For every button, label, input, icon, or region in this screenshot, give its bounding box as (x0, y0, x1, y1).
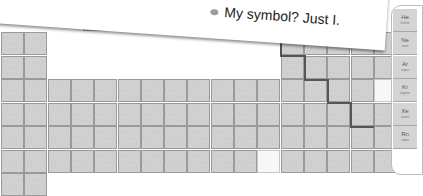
element-tile[interactable] (118, 126, 141, 149)
element-tile[interactable] (141, 79, 164, 102)
element-tile[interactable] (24, 32, 47, 55)
element-tile[interactable] (187, 126, 210, 149)
element-tile[interactable] (164, 150, 187, 173)
element-tile[interactable] (164, 103, 187, 126)
noble-gas-tile-neon[interactable]: Neneon (393, 32, 417, 55)
element-tile[interactable] (234, 126, 257, 149)
staircase-divider (350, 102, 352, 126)
element-symbol: Rn (393, 131, 417, 138)
element-name: helium (393, 21, 417, 25)
element-tile[interactable] (281, 126, 304, 149)
element-tile[interactable] (1, 79, 24, 102)
element-tile[interactable] (187, 79, 210, 102)
element-tile[interactable] (234, 79, 257, 102)
element-tile[interactable] (24, 173, 47, 196)
element-tile[interactable] (118, 103, 141, 126)
element-tile[interactable] (327, 103, 350, 126)
noble-gas-tile-helium[interactable]: Hehelium (393, 9, 417, 32)
element-tile[interactable] (257, 150, 280, 173)
element-tile[interactable] (327, 79, 350, 102)
element-name: xenon (393, 115, 417, 119)
element-tile[interactable] (24, 150, 47, 173)
element-tile[interactable] (234, 150, 257, 173)
element-tile[interactable] (164, 126, 187, 149)
element-tile[interactable] (257, 79, 280, 102)
element-tile[interactable] (164, 79, 187, 102)
element-tile[interactable] (257, 103, 280, 126)
element-tile[interactable] (94, 79, 117, 102)
element-symbol: Kr (393, 84, 417, 91)
element-tile[interactable] (94, 126, 117, 149)
element-tile[interactable] (304, 56, 327, 79)
element-tile[interactable] (24, 103, 47, 126)
element-tile[interactable] (304, 150, 327, 173)
element-tile[interactable] (94, 150, 117, 173)
element-name: krypton (393, 91, 417, 95)
element-tile[interactable] (1, 56, 24, 79)
noble-gas-tile-radon[interactable]: Rnradon (393, 126, 417, 149)
element-tile[interactable] (187, 103, 210, 126)
element-tile[interactable] (234, 103, 257, 126)
element-tile[interactable] (187, 150, 210, 173)
staircase-divider (350, 126, 374, 128)
bullet-icon (210, 9, 218, 16)
element-tile[interactable] (211, 79, 234, 102)
element-tile[interactable] (24, 79, 47, 102)
element-tile[interactable] (24, 126, 47, 149)
element-tile[interactable] (71, 150, 94, 173)
element-tile[interactable] (211, 103, 234, 126)
element-tile[interactable] (281, 56, 304, 79)
element-symbol: He (393, 14, 417, 21)
element-tile[interactable] (304, 103, 327, 126)
staircase-divider (327, 79, 329, 103)
element-tile[interactable] (257, 126, 280, 149)
element-tile[interactable] (48, 126, 71, 149)
element-tile[interactable] (351, 103, 374, 126)
element-symbol: Ne (393, 37, 417, 44)
element-tile[interactable] (1, 32, 24, 55)
element-tile[interactable] (24, 56, 47, 79)
staircase-divider (304, 79, 328, 81)
element-tile[interactable] (211, 126, 234, 149)
element-tile[interactable] (48, 103, 71, 126)
noble-gas-tile-argon[interactable]: Arargon (393, 56, 417, 79)
staircase-divider (280, 55, 304, 57)
element-symbol: Xe (393, 108, 417, 115)
element-tile[interactable] (327, 56, 350, 79)
element-tile[interactable] (118, 150, 141, 173)
element-tile[interactable] (327, 150, 350, 173)
element-tile[interactable] (71, 103, 94, 126)
element-tile[interactable] (48, 150, 71, 173)
element-tile[interactable] (141, 103, 164, 126)
staircase-divider (304, 55, 306, 79)
element-name: argon (393, 68, 417, 72)
element-tile[interactable] (141, 126, 164, 149)
element-tile[interactable] (118, 79, 141, 102)
element-tile[interactable] (304, 126, 327, 149)
element-tile[interactable] (71, 126, 94, 149)
noble-gas-tile-krypton[interactable]: Krkrypton (393, 79, 417, 102)
element-symbol: Ar (393, 61, 417, 68)
element-tile[interactable] (281, 79, 304, 102)
element-tile[interactable] (1, 150, 24, 173)
element-tile[interactable] (211, 150, 234, 173)
element-tile[interactable] (351, 56, 374, 79)
element-tile[interactable] (48, 79, 71, 102)
element-tile[interactable] (351, 126, 374, 149)
element-tile[interactable] (351, 79, 374, 102)
staircase-divider (327, 102, 351, 104)
element-name: radon (393, 138, 417, 142)
element-tile[interactable] (281, 150, 304, 173)
element-tile[interactable] (281, 103, 304, 126)
element-tile[interactable] (1, 126, 24, 149)
noble-gas-tile-xenon[interactable]: Xexenon (393, 103, 417, 126)
element-tile[interactable] (304, 79, 327, 102)
element-tile[interactable] (351, 150, 374, 173)
element-tile[interactable] (71, 79, 94, 102)
element-tile[interactable] (1, 103, 24, 126)
element-tile[interactable] (327, 126, 350, 149)
element-name: neon (393, 44, 417, 48)
element-tile[interactable] (94, 103, 117, 126)
element-tile[interactable] (141, 150, 164, 173)
element-tile[interactable] (1, 173, 24, 196)
